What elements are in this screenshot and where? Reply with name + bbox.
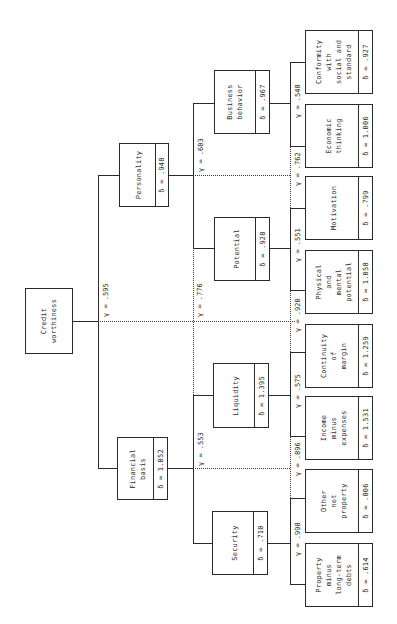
gamma-label: γ = .920 — [294, 298, 302, 332]
delta-value: δ = 1.395 — [257, 376, 267, 416]
node-label: Personality — [134, 151, 144, 200]
node-label: Property minus long-term debts — [314, 555, 354, 595]
node-label: Income minus expenses — [319, 410, 349, 445]
connector — [270, 248, 290, 249]
node-motivation: Motivation δ = .799 — [305, 176, 373, 240]
node-label: Economic thinking — [324, 118, 344, 153]
node-label: Conformity with social and standard — [314, 40, 354, 84]
node-credit-worthiness: Credit worthiness — [25, 288, 73, 354]
node-label: Motivation — [329, 186, 339, 230]
connector — [169, 175, 193, 176]
connector — [290, 436, 305, 437]
gamma-link — [290, 290, 291, 352]
connector — [269, 395, 290, 396]
gamma-link — [98, 321, 295, 322]
connector — [193, 248, 214, 249]
node-other-net-property: Other net property δ = .806 — [305, 469, 373, 533]
node-business-behavior: Business behavior δ = .967 — [214, 70, 270, 134]
delta-value: δ = 1.531 — [361, 408, 371, 448]
gamma-label: γ = .762 — [294, 152, 302, 186]
node-label: Security — [230, 525, 240, 560]
node-label: Physical and mental potential — [314, 262, 354, 302]
connector — [290, 146, 305, 147]
delta-value: δ = .806 — [361, 483, 371, 518]
node-label: Credit worthiness — [39, 299, 59, 343]
delta-value: δ = .967 — [258, 84, 268, 119]
gamma-link — [290, 436, 291, 498]
delta-value: δ = .948 — [157, 157, 167, 192]
gamma-label: γ = .553 — [197, 432, 205, 466]
gamma-link — [193, 175, 290, 176]
connector — [290, 584, 305, 585]
gamma-label: γ = .595 — [102, 283, 110, 317]
connector — [193, 103, 214, 104]
delta-value: δ = 1.052 — [156, 449, 166, 489]
node-label: Business behavior — [225, 84, 245, 119]
node-continuity-of-margin: Continuity of margin δ = 1.259 — [305, 324, 373, 388]
delta-value: δ = 1.259 — [361, 336, 371, 376]
gamma-label: γ = .998 — [294, 522, 302, 556]
connector — [270, 103, 290, 104]
node-property-minus-debts: Property minus long-term debts δ = .614 — [305, 543, 373, 607]
node-label: Potential — [232, 229, 242, 269]
gamma-label: γ = .896 — [294, 442, 302, 476]
delta-value: δ = .710 — [256, 525, 266, 560]
node-economic-thinking: Economic thinking δ = 1.006 — [305, 104, 373, 168]
connector — [290, 498, 291, 584]
gamma-label: γ = .548 — [294, 84, 302, 118]
connector — [98, 175, 119, 176]
connector — [193, 543, 212, 544]
connector — [290, 290, 305, 291]
node-financial-basis: Financial basis δ = 1.052 — [117, 437, 168, 500]
node-label: Financial basis — [128, 449, 148, 489]
delta-value: δ = 1.006 — [361, 116, 371, 156]
connector — [193, 395, 213, 396]
connector — [290, 208, 291, 290]
node-label: Liquidity — [231, 376, 241, 416]
node-label: Other net property — [319, 483, 349, 518]
gamma-label: γ = .603 — [197, 138, 205, 172]
gamma-link — [193, 248, 194, 395]
gamma-link — [193, 468, 290, 469]
gamma-link — [290, 146, 291, 208]
connector — [290, 352, 291, 436]
delta-value: δ = .928 — [258, 231, 268, 266]
connector — [168, 468, 193, 469]
delta-value: δ = .927 — [361, 44, 371, 79]
node-conformity: Conformity with social and standard δ = … — [305, 30, 373, 94]
node-potential: Potential δ = .928 — [214, 217, 270, 281]
connector — [98, 468, 117, 469]
connector — [290, 352, 305, 353]
delta-value: δ = .614 — [361, 557, 371, 592]
delta-value: δ = 1.058 — [361, 262, 371, 302]
connector — [290, 62, 305, 63]
connector — [193, 395, 194, 543]
connector — [268, 543, 290, 544]
credit-worthiness-tree: Credit worthiness γ = .595 γ = .776 Pers… — [0, 0, 397, 624]
connector — [290, 498, 305, 499]
node-security: Security δ = .710 — [212, 511, 268, 575]
node-label: Continuity of margin — [319, 334, 349, 378]
node-personality: Personality δ = .948 — [119, 143, 169, 207]
node-liquidity: Liquidity δ = 1.395 — [213, 363, 269, 428]
connector — [290, 62, 291, 146]
gamma-label: γ = .776 — [196, 283, 204, 317]
connector — [73, 321, 98, 322]
connector — [290, 208, 305, 209]
gamma-label: γ = .551 — [294, 228, 302, 262]
delta-value: δ = .799 — [361, 190, 371, 225]
gamma-label: γ = .575 — [294, 374, 302, 408]
node-physical-mental-potential: Physical and mental potential δ = 1.058 — [305, 250, 373, 314]
node-income-minus-expenses: Income minus expenses δ = 1.531 — [305, 396, 373, 460]
connector — [193, 103, 194, 249]
